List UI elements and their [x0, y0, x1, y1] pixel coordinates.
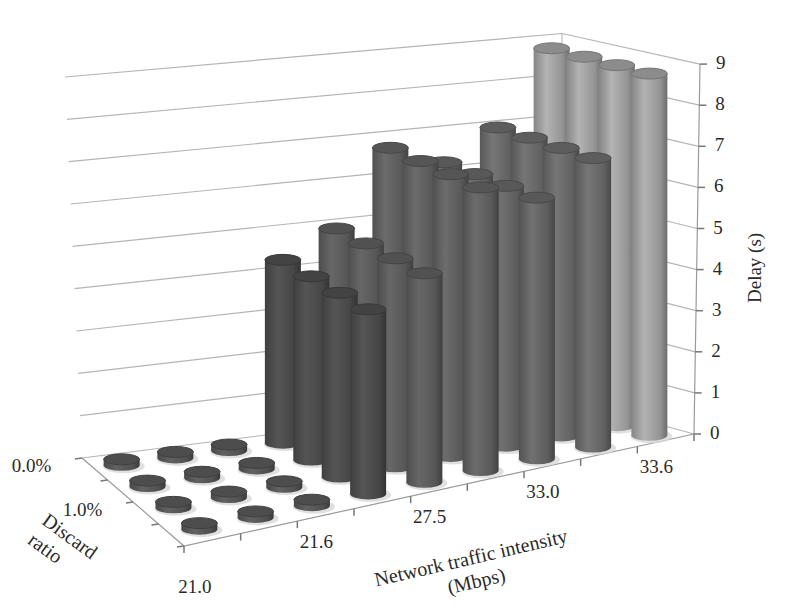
bar-cylinder [349, 304, 391, 502]
x-tick-label: 21.6 [300, 531, 333, 553]
bar-cylinder [210, 439, 252, 459]
z-tick-label: 1.0% [63, 499, 103, 521]
y-tick-label: 5 [713, 217, 723, 239]
y-tick-label: 0 [710, 422, 720, 444]
x-tick-label: 21.0 [178, 576, 211, 598]
bar-cylinder [210, 486, 252, 506]
bar-cylinder [183, 466, 225, 486]
y-tick-label: 6 [714, 175, 724, 197]
bar-cylinder [405, 268, 447, 490]
bar-cylinder [237, 506, 279, 526]
y-tick-label: 2 [711, 340, 721, 362]
y-tick-label: 1 [711, 381, 721, 403]
y-tick-label: 8 [715, 93, 725, 115]
y-tick-label: 4 [713, 258, 723, 280]
bar-cylinder [129, 475, 171, 495]
z-tick-label: 0.0% [12, 455, 52, 477]
bar-cylinder [103, 454, 145, 474]
x-tick-label: 27.5 [413, 506, 446, 528]
bar-cylinder [265, 476, 307, 496]
y-tick-label: 9 [716, 52, 726, 74]
bar-cylinder [574, 153, 616, 455]
y-tick-label: 7 [715, 134, 725, 156]
bar-cylinder [238, 457, 280, 477]
bar-cylinder [462, 182, 504, 479]
bar-cylinder [154, 496, 196, 515]
x-tick-label: 33.6 [640, 456, 673, 478]
bar-cylinder [630, 68, 672, 443]
y-tick-label: 3 [712, 299, 722, 321]
chart-bars [103, 43, 673, 537]
bar-cylinder [180, 518, 222, 538]
bar-cylinder [518, 192, 560, 467]
y-axis-title: Delay (s) [744, 233, 766, 303]
x-tick-label: 33.0 [526, 481, 559, 503]
bar-cylinder [293, 494, 335, 514]
bar3d-chart [0, 0, 802, 611]
bar-cylinder [156, 446, 198, 466]
